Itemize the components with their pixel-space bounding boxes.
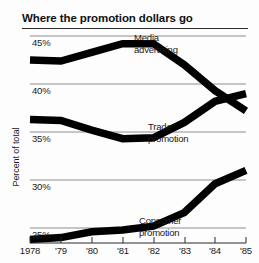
gridlines <box>30 36 246 228</box>
y-tick-label-35: 35% <box>32 133 50 144</box>
chart-figure: Where the promotion dollars go Percent o… <box>0 0 259 263</box>
series-line-consumer-promotion <box>30 170 246 239</box>
x-tick-label-1980: '80 <box>78 245 106 256</box>
y-tick-label-30: 30% <box>32 181 50 192</box>
x-tick-label-1981: '81 <box>109 245 137 256</box>
x-tick-label-1979: '79 <box>47 245 75 256</box>
series-label-media-advertising-line2: advertising <box>134 44 178 56</box>
y-tick-label-25: 25% <box>32 229 50 240</box>
x-tick-label-1985: '85 <box>232 245 259 256</box>
x-tick-label-1983: '83 <box>171 245 199 256</box>
series-label-media-advertising-line1: Media <box>134 32 178 44</box>
y-tick-label-45: 45% <box>32 37 50 48</box>
y-tick-label-40: 40% <box>32 85 50 96</box>
series-label-trade-promotion-line2: promotion <box>148 133 188 145</box>
series-label-consumer-promotion: Consumer promotion <box>139 215 181 238</box>
x-tick-label-1984: '84 <box>201 245 229 256</box>
series-label-consumer-promotion-line2: promotion <box>139 227 181 239</box>
series-label-consumer-promotion-line1: Consumer <box>139 215 181 227</box>
x-tick-label-1978: 1978 <box>16 245 44 256</box>
series-label-trade-promotion: Trade promotion <box>148 121 188 144</box>
series-label-media-advertising: Media advertising <box>134 32 178 55</box>
series-label-trade-promotion-line1: Trade <box>148 121 188 133</box>
x-tick-label-1982: '82 <box>140 245 168 256</box>
